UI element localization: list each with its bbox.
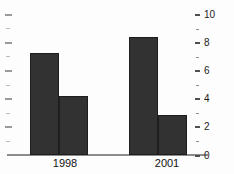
x-tick-label-2001: 2001 [155, 157, 179, 170]
y-tick-label: 4 [204, 93, 210, 105]
left-major-tick [5, 126, 12, 128]
bar-chart: 0246810 19982001 [0, 0, 234, 174]
right-major-tick [195, 42, 200, 44]
right-major-tick [195, 126, 200, 128]
right-major-tick [195, 70, 200, 72]
y-tick-label: 10 [204, 9, 215, 21]
left-major-tick [5, 70, 12, 72]
right-minor-tick [196, 141, 199, 142]
left-minor-tick [6, 28, 10, 29]
right-minor-tick [196, 29, 199, 30]
left-minor-tick [6, 56, 10, 57]
y-tick-label: 0 [204, 150, 210, 162]
left-major-tick [5, 98, 12, 100]
bar-1998-bar-1 [30, 53, 59, 156]
bar-2001-bar-1 [129, 37, 158, 155]
left-major-tick [5, 14, 12, 16]
left-minor-tick [6, 85, 10, 86]
right-minor-tick [196, 113, 199, 114]
x-tick-label-1998: 1998 [53, 157, 77, 170]
left-minor-tick [6, 113, 10, 114]
right-major-tick [195, 155, 200, 157]
bar-2001-bar-2 [158, 115, 187, 156]
left-major-tick [5, 42, 12, 44]
left-minor-tick [6, 141, 10, 142]
y-tick-label: 8 [204, 37, 210, 49]
right-minor-tick [196, 85, 199, 86]
right-minor-tick [196, 57, 199, 58]
right-major-tick [195, 98, 200, 100]
bar-1998-bar-2 [59, 96, 88, 155]
right-major-tick [195, 14, 200, 16]
y-tick-label: 6 [204, 65, 210, 77]
y-tick-label: 2 [204, 121, 210, 133]
